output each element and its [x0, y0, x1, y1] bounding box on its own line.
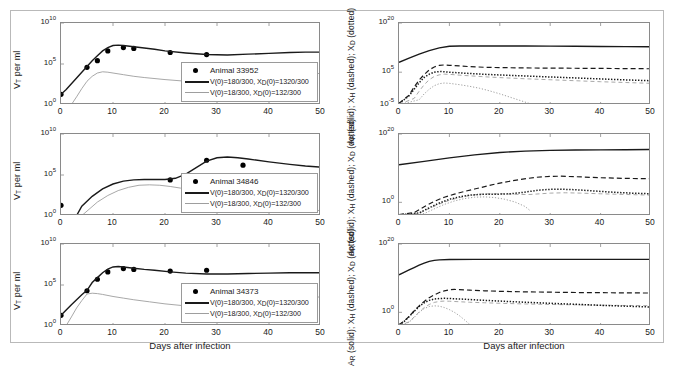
y-axis-label-middle-left: VT per ml	[12, 162, 22, 200]
x-tick-label: 20	[155, 327, 173, 337]
legend-key-lthin	[184, 308, 210, 319]
legend-key-lthick	[184, 187, 210, 198]
legend-key-dot	[184, 65, 210, 76]
y-tick-label: 105	[360, 66, 394, 75]
legend-marker-icon	[193, 289, 198, 294]
data-marker	[204, 268, 209, 273]
legend-line-icon	[185, 81, 209, 83]
legend-marker-icon	[193, 179, 198, 184]
legend-row: V(0)=180/300, XD(0)=1320/300	[184, 76, 314, 87]
y-tick-label: 100	[360, 196, 394, 205]
plot-curves-top-right	[399, 23, 650, 104]
series-curve	[399, 83, 530, 104]
x-tick-label: 10	[439, 327, 457, 337]
legend-label: Animal 33952	[210, 66, 258, 75]
x-tick-label: 40	[591, 106, 609, 116]
legend-line-icon	[185, 313, 209, 314]
y-axis-label-top-left: VT per ml	[12, 51, 22, 89]
legend-label: V(0)=180/300, XD(0)=1320/300	[210, 188, 309, 197]
series-curve	[399, 189, 650, 215]
plot-area-top-right	[398, 22, 650, 104]
legend-bottom-left: Animal 34373V(0)=180/300, XD(0)=1320/300…	[181, 283, 318, 323]
legend-row: V(0)=180/300, XD(0)=1320/300	[184, 187, 314, 198]
y-tick-label: 1010	[22, 238, 56, 247]
series-curve	[399, 289, 650, 324]
x-tick-label: 40	[591, 327, 609, 337]
x-tick-label: 30	[540, 327, 558, 337]
x-tick-label: 20	[490, 106, 508, 116]
x-tick-label: 10	[439, 217, 457, 227]
legend-line-icon	[185, 192, 209, 194]
legend-label: Animal 34373	[210, 287, 258, 296]
series-curve	[399, 306, 470, 325]
x-tick-label: 20	[155, 217, 173, 227]
legend-label: Animal 34846	[210, 177, 258, 186]
legend-row: V(0)=18/300, XD(0)=132/300	[184, 308, 314, 319]
y-tick-label: 1020	[360, 128, 394, 137]
x-tick-label: 50	[641, 327, 659, 337]
legend-top-left: Animal 33952V(0)=180/300, XD(0)=1320/300…	[181, 62, 318, 102]
series-curve	[399, 46, 650, 62]
series-curve	[399, 150, 650, 165]
x-tick-label: 0	[51, 217, 69, 227]
x-tick-label: 0	[51, 106, 69, 116]
plot-area-bottom-right	[398, 243, 650, 325]
x-tick-label: 40	[591, 217, 609, 227]
x-tick-label: 20	[490, 217, 508, 227]
y-tick-label: 1010	[22, 128, 56, 137]
x-tick-label: 20	[155, 106, 173, 116]
legend-row: Animal 34846	[184, 176, 314, 187]
legend-marker-icon	[193, 68, 198, 73]
x-tick-label: 50	[311, 327, 329, 337]
legend-label: V(0)=180/300, XD(0)=1320/300	[210, 298, 309, 307]
legend-row: Animal 34373	[184, 286, 314, 297]
y-tick-label: 105	[22, 279, 56, 288]
series-curve	[399, 65, 650, 103]
x-tick-label: 10	[103, 217, 121, 227]
x-tick-label: 30	[540, 106, 558, 116]
x-tick-label: 10	[103, 106, 121, 116]
legend-label: V(0)=18/300, XD(0)=132/300	[210, 309, 301, 318]
series-curve	[399, 197, 530, 215]
legend-key-lthick	[184, 76, 210, 87]
x-tick-label: 50	[641, 106, 659, 116]
x-tick-label: 50	[311, 217, 329, 227]
legend-key-lthin	[184, 198, 210, 209]
legend-label: V(0)=18/300, XD(0)=132/300	[210, 88, 301, 97]
y-tick-label: 105	[22, 169, 56, 178]
legend-key-dot	[184, 176, 210, 187]
y-tick-label: 1020	[360, 17, 394, 26]
x-tick-label: 50	[311, 106, 329, 116]
x-axis-label-bottom-right: Days after infection	[398, 340, 650, 351]
x-tick-label: 0	[389, 106, 407, 116]
legend-key-dot	[184, 286, 210, 297]
legend-middle-left: Animal 34846V(0)=180/300, XD(0)=1320/300…	[181, 173, 318, 213]
x-tick-label: 30	[207, 106, 225, 116]
x-tick-label: 10	[439, 106, 457, 116]
series-curve	[399, 259, 650, 274]
legend-row: Animal 33952	[184, 65, 314, 76]
legend-key-lthick	[184, 297, 210, 308]
data-marker	[240, 163, 245, 168]
plot-area-middle-right	[398, 133, 650, 215]
x-tick-label: 0	[389, 217, 407, 227]
x-tick-label: 40	[259, 106, 277, 116]
y-axis-label-bottom-left: VT per ml	[12, 272, 22, 310]
legend-row: V(0)=18/300, XD(0)=132/300	[184, 87, 314, 98]
plot-curves-bottom-right	[399, 244, 650, 325]
y-tick-label: 1020	[360, 238, 394, 247]
data-marker	[61, 203, 64, 208]
x-tick-label: 30	[207, 327, 225, 337]
legend-line-icon	[185, 92, 209, 93]
x-tick-label: 0	[389, 327, 407, 337]
x-tick-label: 20	[490, 327, 508, 337]
legend-row: V(0)=180/300, XD(0)=1320/300	[184, 297, 314, 308]
y-tick-label: 1010	[22, 17, 56, 26]
x-tick-label: 40	[259, 327, 277, 337]
series-curve	[399, 72, 650, 104]
x-tick-label: 50	[641, 217, 659, 227]
data-marker	[95, 58, 100, 63]
x-tick-label: 0	[51, 327, 69, 337]
x-tick-label: 40	[259, 217, 277, 227]
